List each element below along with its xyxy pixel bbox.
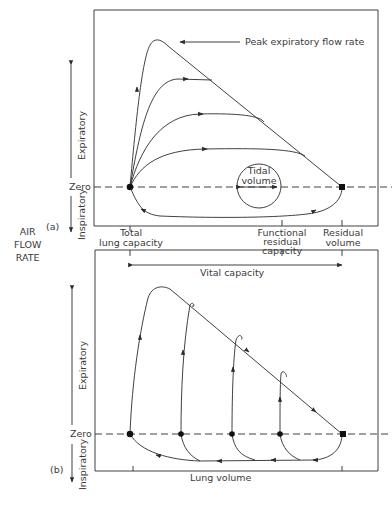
- y-title-line-3: RATE: [14, 252, 41, 265]
- panel-b-frame: [95, 250, 378, 471]
- tlc-label-2: lung capacity: [96, 238, 166, 248]
- vital-capacity-label: Vital capacity: [200, 268, 264, 278]
- peak-flow-label: Peak expiratory flow rate: [245, 37, 364, 47]
- rv-label: Residual volume: [316, 228, 370, 247]
- frc-label-3: capacity: [252, 246, 312, 255]
- rv-point-a: [339, 184, 345, 190]
- zero-label-b: Zero: [70, 429, 92, 439]
- tidal-label: Tidal volume: [240, 166, 278, 185]
- rv-point-b: [340, 431, 346, 437]
- flow-volume-diagram: [0, 0, 392, 510]
- panel-a-tag: (a): [46, 222, 59, 232]
- forced-expiration-curve: [130, 287, 342, 434]
- expiratory-label-a: Expiratory: [76, 111, 87, 160]
- expiratory-label-b: Expiratory: [77, 341, 88, 390]
- y-title-line-1: AIR: [14, 226, 41, 239]
- lung-volume-label: Lung volume: [190, 473, 251, 483]
- tlc-label: Total lung capacity: [96, 228, 166, 247]
- tlc-point-a: [127, 184, 134, 191]
- y-axis-title: AIR FLOW RATE: [14, 226, 41, 264]
- tidal-label-2: volume: [240, 176, 278, 186]
- inspiratory-curve-a: [130, 187, 342, 217]
- inspiratory-label-b: Inspiratory: [77, 439, 88, 490]
- y-title-line-2: FLOW: [14, 239, 41, 252]
- peak-flow-curve: [130, 40, 342, 187]
- frc-label: Functional residual capacity: [252, 228, 312, 255]
- inspiratory-label-a: Inspiratory: [76, 189, 87, 240]
- panel-b-tag: (b): [50, 465, 63, 475]
- rv-label-2: volume: [316, 238, 370, 248]
